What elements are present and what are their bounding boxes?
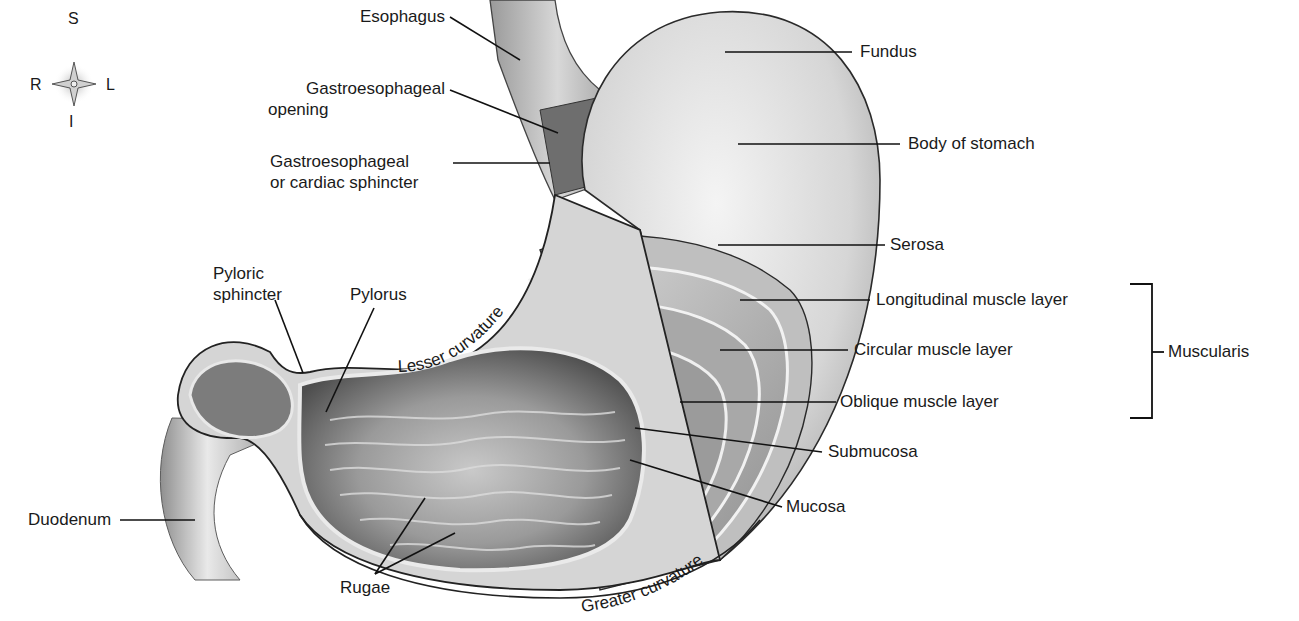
label-mucosa: Mucosa (786, 497, 846, 517)
compass-inferior: I (69, 113, 73, 131)
label-ge-opening-1: Gastroesophageal (250, 79, 445, 99)
stomach-illustration: Lesser curvature Greater curvature (0, 0, 1299, 621)
compass-superior: S (68, 10, 79, 28)
label-oblique-muscle: Oblique muscle layer (840, 392, 999, 412)
compass-left: L (106, 76, 115, 94)
stomach-lumen (299, 348, 644, 570)
label-ge-sphincter-1: Gastroesophageal (270, 152, 409, 172)
label-longitudinal-muscle: Longitudinal muscle layer (876, 290, 1068, 310)
label-circular-muscle: Circular muscle layer (854, 340, 1013, 360)
label-ge-sphincter-2: or cardiac sphincter (270, 173, 418, 193)
label-duodenum: Duodenum (28, 510, 111, 530)
label-pylorus: Pylorus (350, 285, 407, 305)
muscularis-bracket (1130, 284, 1164, 418)
label-pyloric-sphincter-2: sphincter (213, 285, 282, 305)
label-submucosa: Submucosa (828, 442, 918, 462)
label-esophagus: Esophagus (330, 7, 445, 27)
compass-rose-icon (52, 62, 96, 106)
label-rugae: Rugae (340, 578, 390, 598)
label-muscularis: Muscularis (1168, 342, 1249, 362)
label-fundus: Fundus (860, 42, 917, 62)
label-ge-opening-2: opening (268, 100, 329, 120)
label-serosa: Serosa (890, 235, 944, 255)
label-pyloric-sphincter-1: Pyloric (213, 264, 264, 284)
compass-right: R (30, 76, 42, 94)
label-body-of-stomach: Body of stomach (908, 134, 1035, 154)
duodenum-shape (160, 418, 265, 580)
